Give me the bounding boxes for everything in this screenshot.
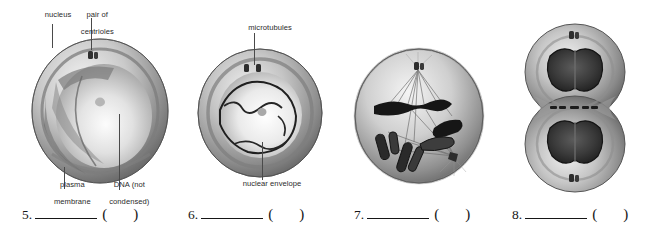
label-pair-of-centrioles: pair of centrioles (67, 2, 119, 45)
answer-item-8: 8. ( ) (512, 206, 628, 223)
leader-nucleus (52, 24, 53, 48)
paren-open: ( (592, 206, 597, 223)
paren-open: ( (434, 206, 439, 223)
answer-item-6: 6. ( ) (188, 206, 304, 223)
paren-open: ( (102, 206, 107, 223)
cell-illustration-prometaphase (348, 46, 490, 186)
answer-number: 6. (188, 207, 198, 223)
cell-panel-4 (512, 22, 638, 194)
answer-blank-input[interactable] (525, 207, 587, 219)
paren-open: ( (268, 206, 273, 223)
answer-item-5: 5. ( ) (22, 206, 138, 223)
answer-blank-input[interactable] (35, 207, 97, 219)
answer-number: 7. (354, 207, 364, 223)
answer-blank-input[interactable] (201, 207, 263, 219)
cell-panel-3 (348, 46, 490, 186)
answer-number: 8. (512, 207, 522, 223)
label-line-2: centrioles (81, 27, 114, 36)
paren-close: ) (465, 206, 470, 223)
cell-panel-1 (22, 36, 178, 186)
answer-number: 5. (22, 207, 32, 223)
leader-microtubules (254, 33, 255, 65)
answer-blank-input[interactable] (367, 207, 429, 219)
label-line-1: plasma (60, 180, 85, 189)
cell-illustration-prophase (190, 46, 330, 180)
label-line-1: DNA (not (114, 180, 145, 189)
cell-illustration-interphase (22, 36, 178, 186)
leader-nuclear-envelope (262, 142, 263, 180)
paren-close: ) (623, 206, 628, 223)
paren-close: ) (133, 206, 138, 223)
answer-row: 5. ( ) 6. ( ) 7. ( ) 8. ( ) (0, 200, 667, 238)
cell-illustration-telophase (512, 22, 638, 194)
answer-item-7: 7. ( ) (354, 206, 470, 223)
label-microtubules: microtubules (226, 24, 314, 33)
label-nuclear-envelope: nuclear envelope (214, 180, 330, 189)
cell-panel-2 (190, 46, 330, 180)
label-line-1: pair of (87, 10, 108, 19)
mitosis-figure: nucleus pair of centrioles plasma membra… (0, 0, 667, 200)
paren-close: ) (299, 206, 304, 223)
